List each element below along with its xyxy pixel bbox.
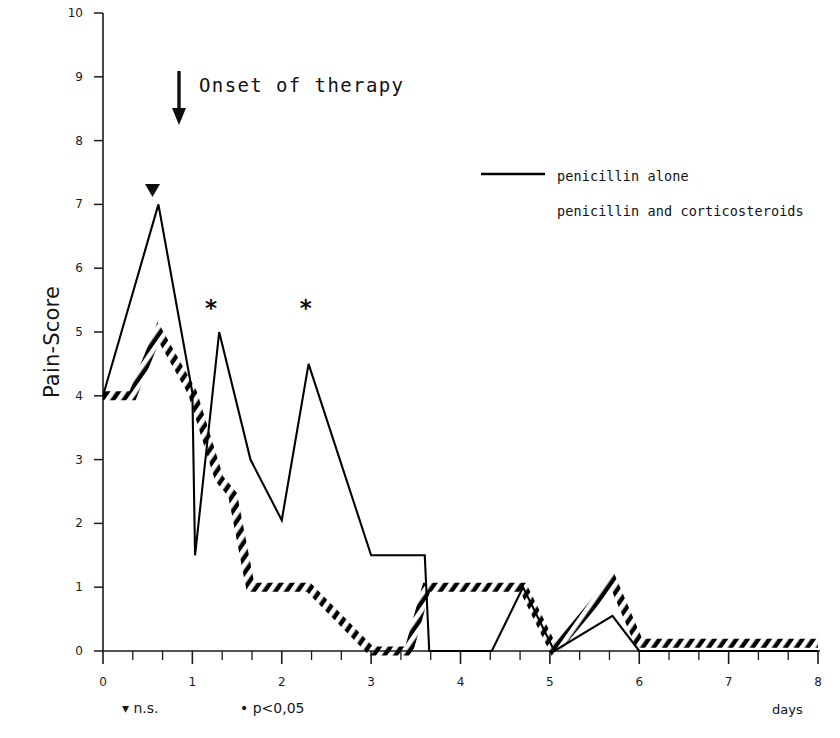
significance-star-marker: * — [300, 295, 312, 321]
x-axis — [103, 651, 820, 664]
y-tick-label: 4 — [57, 389, 83, 403]
x-tick-label: 0 — [90, 675, 116, 689]
x-tick-label: 5 — [537, 675, 563, 689]
legend-item-penicillin-alone: penicillin alone — [557, 168, 689, 184]
onset-of-therapy-label: Onset of therapy — [199, 76, 404, 95]
y-tick-label: 0 — [57, 644, 83, 658]
significance-marker-ns — [145, 184, 160, 197]
y-tick-label: 5 — [57, 325, 83, 339]
significance-star-marker: * — [205, 295, 217, 321]
y-tick-label: 3 — [57, 453, 83, 467]
y-tick-label: 10 — [57, 6, 83, 20]
y-axis-ticks — [94, 13, 103, 651]
x-tick-label: 6 — [626, 675, 652, 689]
x-axis-ticks — [103, 651, 818, 664]
x-axis-title: days — [772, 703, 803, 716]
down-arrow-icon — [172, 71, 186, 125]
y-tick-label: 6 — [57, 261, 83, 275]
y-tick-label: 9 — [57, 70, 83, 84]
footnote-p-value: • p<0,05 — [240, 700, 305, 716]
x-tick-label: 4 — [448, 675, 474, 689]
legend-item-penicillin-and-corticosteroids: penicillin and corticosteroids — [557, 203, 804, 219]
footnote-not-significant: ▾ n.s. — [122, 700, 159, 716]
x-tick-label: 2 — [269, 675, 295, 689]
y-tick-label: 1 — [57, 580, 83, 594]
x-tick-label: 1 — [179, 675, 205, 689]
pain-score-chart-figure: Pain-Score days Onset of therapy penicil… — [0, 0, 840, 738]
y-tick-label: 8 — [57, 134, 83, 148]
series-penicillin-and-corticosteroids — [103, 332, 818, 651]
x-tick-label: 3 — [358, 675, 384, 689]
x-tick-label: 7 — [716, 675, 742, 689]
x-tick-label: 8 — [805, 675, 831, 689]
y-axis — [94, 13, 103, 651]
chart-canvas — [0, 0, 840, 738]
y-tick-label: 7 — [57, 197, 83, 211]
y-tick-label: 2 — [57, 516, 83, 530]
